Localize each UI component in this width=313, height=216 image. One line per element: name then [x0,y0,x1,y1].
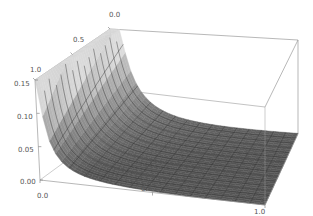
y-tick-1: 0.5 [73,36,84,44]
x-tick-1: 0.5 [141,185,152,193]
x-tick-0: 0.0 [37,192,48,200]
z-tick-1: 0.05 [18,146,34,154]
z-tick-0: 0.00 [20,178,36,186]
y-tick-0: 0.0 [109,11,120,19]
y-tick-2: 1.0 [30,66,41,74]
z-tick-2: 0.10 [17,113,33,121]
surface-mesh [35,29,298,205]
x-tick-2: 1.0 [254,208,265,216]
z-tick-3: 0.15 [14,80,30,88]
surface-plot-3d: 0.0 0.5 1.0 0.15 0.10 0.05 0.00 0.0 0.5 … [0,0,313,216]
